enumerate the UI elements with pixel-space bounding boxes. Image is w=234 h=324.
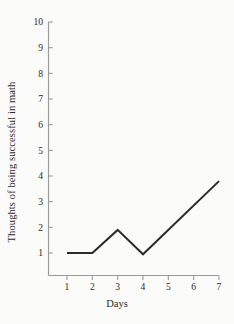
y-tick-label: 8 <box>38 68 43 79</box>
x-tick-label: 4 <box>141 281 146 292</box>
y-tick-label: 6 <box>38 119 43 130</box>
x-tick-label: 7 <box>217 281 222 292</box>
x-tick-label: 1 <box>65 281 70 292</box>
data-series <box>67 181 219 254</box>
y-tick-label: 5 <box>38 145 43 156</box>
y-tick-label: 4 <box>38 170 43 181</box>
x-axis-label: Days <box>0 298 234 309</box>
y-tick-label: 10 <box>33 16 43 27</box>
y-axis: 10987654321 <box>33 16 52 275</box>
y-axis-label: Thoughts of being successful in math <box>0 0 22 324</box>
y-tick-label: 2 <box>38 222 43 233</box>
plot-area: 10987654321 1234567 <box>0 0 234 324</box>
y-tick-label: 3 <box>38 196 43 207</box>
y-tick-label: 9 <box>38 42 43 53</box>
y-tick-label: 7 <box>38 93 43 104</box>
x-tick-label: 6 <box>191 281 196 292</box>
line-chart: 10987654321 1234567 Thoughts of being su… <box>0 0 234 324</box>
series-line <box>67 181 219 254</box>
x-tick-label: 5 <box>166 281 171 292</box>
x-tick-label: 2 <box>90 281 95 292</box>
x-axis: 1234567 <box>49 276 222 293</box>
x-tick-label: 3 <box>115 281 120 292</box>
y-tick-label: 1 <box>38 247 43 258</box>
